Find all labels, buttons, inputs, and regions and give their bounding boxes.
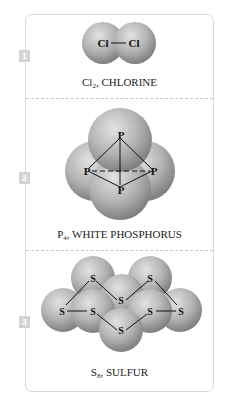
formula-base: Cl	[82, 76, 92, 88]
svg-text:P: P	[118, 129, 125, 141]
white-phosphorus-molecule: P P P P	[65, 108, 175, 220]
svg-text:P: P	[84, 165, 91, 177]
chlorine-molecule: Cl Cl	[82, 22, 156, 64]
sulfur-caption: S8, SULFUR	[25, 366, 214, 380]
chlorine-caption: Cl2, CHLORINE	[25, 76, 214, 90]
molecule-models: Cl Cl P P P P	[0, 0, 229, 401]
svg-text:S: S	[118, 325, 124, 336]
phosphorus-caption: P4, WHITE PHOSPHORUS	[25, 228, 214, 242]
svg-text:Cl: Cl	[98, 37, 109, 49]
svg-text:P: P	[151, 165, 158, 177]
svg-text:Cl: Cl	[129, 37, 140, 49]
svg-text:S: S	[147, 306, 153, 317]
compound-name: , CHLORINE	[96, 76, 157, 88]
svg-text:S: S	[90, 306, 96, 317]
compound-name: , SULFUR	[100, 366, 148, 378]
svg-text:P: P	[118, 184, 125, 196]
svg-text:S: S	[147, 273, 153, 284]
compound-name: , WHITE PHOSPHORUS	[67, 228, 182, 240]
svg-text:S: S	[178, 306, 184, 317]
sulfur-molecule: S S S S S S S S	[41, 256, 202, 352]
svg-text:S: S	[118, 295, 124, 306]
svg-text:S: S	[90, 273, 96, 284]
svg-text:S: S	[59, 306, 65, 317]
